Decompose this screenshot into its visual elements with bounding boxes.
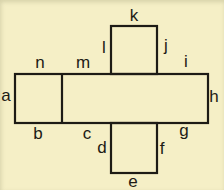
edge-label-f: f [160, 140, 165, 157]
edge-label-j: j [164, 37, 168, 54]
net-drawing [0, 0, 224, 190]
net-diagram: a b c d e f g h i j k l m n [0, 0, 224, 190]
edge-label-k: k [130, 7, 139, 24]
net-bottom-square [111, 123, 157, 173]
edge-label-d: d [97, 139, 106, 156]
edge-label-a: a [1, 87, 10, 104]
edge-label-m: m [76, 54, 90, 71]
net-row-outline [15, 74, 208, 123]
edge-label-e: e [128, 173, 137, 190]
edge-label-b: b [33, 125, 42, 142]
edge-label-g: g [179, 122, 188, 139]
edge-label-h: h [209, 88, 218, 105]
edge-label-i: i [184, 53, 188, 70]
net-top-square [111, 26, 157, 74]
edge-label-l: l [102, 39, 106, 56]
edge-label-n: n [35, 54, 44, 71]
edge-label-c: c [83, 125, 92, 142]
